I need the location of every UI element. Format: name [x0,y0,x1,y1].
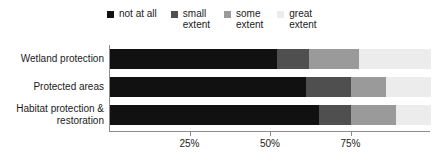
bar-segment-great-extent [396,105,431,125]
bar-segment-small-extent [277,49,309,69]
category-label-protected-areas: Protected areas [0,81,104,93]
bar-row [110,105,431,125]
plot-area [109,45,431,131]
bar-row [110,77,431,97]
x-axis-tick [270,131,271,136]
legend-swatch-icon [224,11,231,18]
chart-legend: not at all small extent some extent grea… [107,8,427,38]
x-axis-tick-label: 25% [170,138,210,149]
category-label-habitat-protection-restoration: Habitat protection & restoration [0,103,104,126]
bar-segment-some-extent [351,77,386,97]
legend-item-small-extent[interactable]: small extent [171,8,210,30]
bar-segment-not-at-all [110,105,319,125]
legend-item-great-extent[interactable]: great extent [277,8,316,30]
legend-item-label: some extent [236,8,263,30]
x-axis-tick-label: 75% [331,138,371,149]
bar-segment-small-extent [306,77,351,97]
bar-segment-some-extent [309,49,359,69]
x-axis-tick-label: 50% [250,138,290,149]
category-label-wetland-protection: Wetland protection [0,53,104,65]
x-axis-tick [351,131,352,136]
legend-item-label: not at all [119,8,157,19]
legend-swatch-icon [107,11,114,18]
legend-item-label: small extent [183,8,210,30]
bar-segment-small-extent [319,105,351,125]
legend-swatch-icon [171,11,178,18]
legend-swatch-icon [277,11,284,18]
bar-segment-some-extent [351,105,396,125]
bar-segment-great-extent [386,77,431,97]
legend-item-some-extent[interactable]: some extent [224,8,263,30]
bar-segment-not-at-all [110,77,306,97]
stacked-bar-chart: not at all small extent some extent grea… [0,0,437,155]
bar-segment-great-extent [359,49,431,69]
legend-item-not-at-all[interactable]: not at all [107,8,157,19]
legend-item-label: great extent [289,8,316,30]
bar-segment-not-at-all [110,49,277,69]
bar-row [110,49,431,69]
x-axis-tick [190,131,191,136]
